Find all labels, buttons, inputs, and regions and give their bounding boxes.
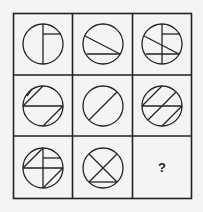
question-mark: ? bbox=[158, 160, 166, 175]
puzzle-grid: ? bbox=[0, 0, 203, 212]
cell-r2-c0-figure bbox=[23, 148, 63, 188]
